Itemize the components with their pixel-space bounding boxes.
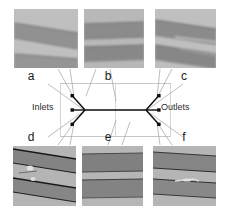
panel-b-band-2 <box>84 45 144 62</box>
panel-caption-c: c <box>177 70 191 82</box>
leader-line-e2 <box>122 122 130 145</box>
panel-caption-e: e <box>101 131 115 143</box>
panel-d-defect-spot <box>27 165 34 170</box>
leader-line-outer-left-bottom <box>48 111 84 137</box>
panel-a-texture <box>14 9 78 68</box>
outlets-label: Outlets <box>161 103 190 112</box>
panel-d-defect-spot-2 <box>30 177 35 181</box>
panel-caption-f: f <box>177 131 191 143</box>
micrograph-panel-e <box>82 146 143 206</box>
inlet-port-bottom <box>71 123 74 126</box>
panel-caption-b: b <box>101 70 115 82</box>
inlet-branch-bottom <box>73 110 86 124</box>
leader-line-c <box>158 69 172 96</box>
micrograph-panel-b <box>84 9 144 68</box>
inlets-label: Inlets <box>32 103 54 112</box>
panel-b-band-1 <box>84 22 144 39</box>
panel-e-band-1 <box>82 153 143 172</box>
figure-root: Inlets Outlets a <box>0 0 231 212</box>
micrograph-panel-d <box>13 146 76 206</box>
inlet-port-middle <box>71 108 74 111</box>
micrograph-panel-f <box>153 146 216 206</box>
leader-line-a2 <box>70 69 74 97</box>
micrograph-panel-a <box>14 9 78 68</box>
outlet-port-bottom <box>157 123 160 126</box>
panel-caption-a: a <box>24 70 38 82</box>
leader-line-b <box>86 69 96 96</box>
panel-f-defect-spot <box>183 178 192 181</box>
outlet-port-top <box>157 94 160 97</box>
leader-line-d2 <box>70 123 74 145</box>
outlet-branch-bottom <box>146 110 159 124</box>
inlet-port-top <box>71 94 74 97</box>
micrograph-panel-c <box>155 9 216 68</box>
panel-e-band-2 <box>82 179 143 198</box>
panel-caption-d: d <box>24 131 38 143</box>
